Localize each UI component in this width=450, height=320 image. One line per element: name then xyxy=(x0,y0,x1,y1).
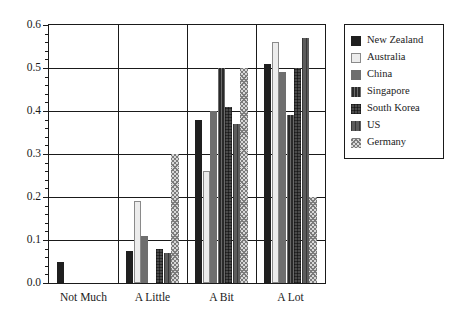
bar-china-a-bit xyxy=(210,111,217,283)
y-axis-minor-tick xyxy=(45,51,49,52)
legend-label: Germany xyxy=(367,137,406,148)
y-axis-minor-tick xyxy=(45,77,49,78)
legend-label: Singapore xyxy=(367,86,410,97)
bar-new-zealand-a-little xyxy=(126,251,133,283)
x-axis-label-a-little: A Little xyxy=(135,292,170,304)
y-axis-minor-tick xyxy=(45,214,49,215)
y-axis-minor-tick xyxy=(45,145,49,146)
y-axis-tick xyxy=(43,197,49,198)
legend-label: South Korea xyxy=(367,103,420,114)
legend-swatch-icon xyxy=(351,121,361,131)
y-axis-minor-tick xyxy=(45,94,49,95)
y-axis-minor-tick xyxy=(45,274,49,275)
legend-item-us[interactable]: US xyxy=(351,117,438,134)
category-separator xyxy=(118,25,119,283)
y-axis-tick xyxy=(43,111,49,112)
plot-area: 0.00.10.20.30.40.50.6Not MuchA LittleA B… xyxy=(48,24,326,284)
bar-australia-a-bit xyxy=(203,171,210,283)
bar-south-korea-a-bit xyxy=(225,107,232,283)
legend-swatch-icon xyxy=(351,36,361,46)
bar-south-korea-a-lot xyxy=(294,68,301,283)
y-axis-minor-tick xyxy=(45,59,49,60)
bar-new-zealand-a-lot xyxy=(264,64,271,283)
bar-us-a-lot xyxy=(302,38,309,283)
y-axis-label: 0.5 xyxy=(27,62,41,74)
legend-item-singapore[interactable]: Singapore xyxy=(351,83,438,100)
category-separator xyxy=(256,25,257,283)
bar-china-a-little xyxy=(141,236,148,283)
x-axis-label-not-much: Not Much xyxy=(60,292,107,304)
y-axis-label: 0.3 xyxy=(27,148,41,160)
legend-item-new-zealand[interactable]: New Zealand xyxy=(351,32,438,49)
legend-label: China xyxy=(367,69,392,80)
y-axis-minor-tick xyxy=(45,137,49,138)
bar-germany-a-lot xyxy=(309,197,316,283)
y-axis-minor-tick xyxy=(45,206,49,207)
bar-singapore-a-bit xyxy=(218,68,225,283)
y-axis-minor-tick xyxy=(45,102,49,103)
bar-australia-a-lot xyxy=(272,42,279,283)
y-axis-label: 0.2 xyxy=(27,191,41,203)
y-axis-minor-tick xyxy=(45,163,49,164)
chart-legend: New ZealandAustraliaChinaSingaporeSouth … xyxy=(344,24,444,159)
y-axis-minor-tick xyxy=(45,266,49,267)
legend-swatch-icon xyxy=(351,104,361,114)
y-axis-tick xyxy=(43,154,49,155)
bar-germany-a-little xyxy=(171,154,178,283)
y-axis-minor-tick xyxy=(45,249,49,250)
bar-new-zealand-not-much xyxy=(57,262,64,284)
y-axis-minor-tick xyxy=(45,85,49,86)
bar-singapore-a-lot xyxy=(287,115,294,283)
bar-chart: 0.00.10.20.30.40.50.6Not MuchA LittleA B… xyxy=(0,0,450,320)
y-axis-minor-tick xyxy=(45,120,49,121)
bar-south-korea-a-little xyxy=(156,249,163,283)
y-axis-label: 0.1 xyxy=(27,234,41,246)
legend-swatch-icon xyxy=(351,70,361,80)
legend-item-australia[interactable]: Australia xyxy=(351,49,438,66)
y-axis-minor-tick xyxy=(45,42,49,43)
legend-label: Australia xyxy=(367,52,406,63)
bar-us-a-little xyxy=(164,253,171,283)
y-axis-tick xyxy=(43,68,49,69)
bar-us-a-bit xyxy=(233,124,240,283)
y-axis-tick xyxy=(43,240,49,241)
legend-swatch-icon xyxy=(351,53,361,63)
category-separator xyxy=(187,25,188,283)
y-axis-minor-tick xyxy=(45,223,49,224)
y-axis-label: 0.4 xyxy=(27,105,41,117)
legend-item-germany[interactable]: Germany xyxy=(351,134,438,151)
bar-china-a-lot xyxy=(279,72,286,283)
x-axis-label-a-bit: A Bit xyxy=(209,292,234,304)
legend-swatch-icon xyxy=(351,87,361,97)
y-axis-tick xyxy=(43,25,49,26)
x-axis-label-a-lot: A Lot xyxy=(277,292,304,304)
legend-label: US xyxy=(367,120,380,131)
y-axis-minor-tick xyxy=(45,188,49,189)
y-axis-minor-tick xyxy=(45,180,49,181)
y-axis-label: 0.6 xyxy=(27,19,41,31)
y-axis-minor-tick xyxy=(45,171,49,172)
legend-swatch-icon xyxy=(351,138,361,148)
bar-new-zealand-a-bit xyxy=(195,120,202,283)
y-axis-minor-tick xyxy=(45,231,49,232)
legend-item-china[interactable]: China xyxy=(351,66,438,83)
legend-item-south-korea[interactable]: South Korea xyxy=(351,100,438,117)
y-axis-tick xyxy=(43,283,49,284)
legend-label: New Zealand xyxy=(367,35,423,46)
y-axis-minor-tick xyxy=(45,34,49,35)
y-axis-minor-tick xyxy=(45,128,49,129)
y-axis-label: 0.0 xyxy=(27,277,41,289)
bar-australia-a-little xyxy=(134,201,141,283)
y-axis-minor-tick xyxy=(45,257,49,258)
bar-germany-a-bit xyxy=(240,68,247,283)
